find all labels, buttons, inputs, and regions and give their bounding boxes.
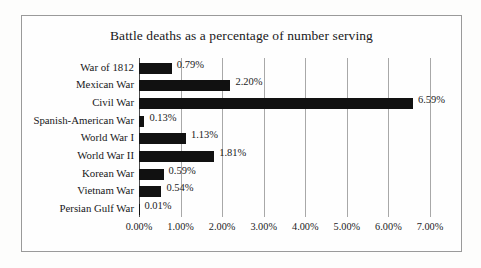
bar-value-label: 1.81%: [219, 147, 246, 158]
bar-row[interactable]: 0.59%: [139, 166, 481, 184]
bar-value-label: 0.79%: [177, 59, 204, 70]
bar[interactable]: [139, 151, 214, 162]
bar-value-label: 1.13%: [191, 129, 218, 140]
bar[interactable]: [139, 80, 230, 91]
bar[interactable]: [139, 133, 186, 144]
bar-value-label: 2.20%: [235, 76, 262, 87]
x-tick-label: 6.00%: [375, 221, 402, 232]
chart-page: Battle deaths as a percentage of number …: [0, 0, 481, 268]
category-label: Korean War: [0, 167, 134, 179]
category-label: World War II: [0, 149, 134, 161]
bar-row[interactable]: 0.01%: [139, 201, 481, 219]
category-label: Persian Gulf War: [0, 202, 134, 214]
bar-value-label: 0.54%: [166, 182, 193, 193]
category-label: Mexican War: [0, 78, 134, 90]
category-label: Civil War: [0, 96, 134, 108]
x-axis-tick-labels: 0.00%1.00%2.00%3.00%4.00%5.00%6.00%7.00%: [139, 221, 430, 237]
x-tick-label: 4.00%: [292, 221, 319, 232]
x-tick-label: 1.00%: [167, 221, 194, 232]
bar-value-label: 0.13%: [149, 112, 176, 123]
category-label: War of 1812: [0, 61, 134, 73]
category-label: Spanish-American War: [0, 114, 134, 126]
bar[interactable]: [139, 98, 413, 109]
x-tick-label: 7.00%: [417, 221, 444, 232]
chart-title: Battle deaths as a percentage of number …: [21, 28, 462, 44]
category-label: World War I: [0, 131, 134, 143]
bar-value-label: 6.59%: [418, 94, 445, 105]
bar-row[interactable]: 0.79%: [139, 60, 481, 78]
bar[interactable]: [139, 169, 164, 180]
category-axis-labels: War of 1812Mexican WarCivil WarSpanish-A…: [0, 58, 134, 217]
x-tick-label: 0.00%: [126, 221, 153, 232]
bar[interactable]: [139, 116, 144, 127]
bar[interactable]: [139, 63, 172, 74]
plot-area: 0.79%2.20%6.59%0.13%1.13%1.81%0.59%0.54%…: [139, 58, 430, 217]
category-label: Vietnam War: [0, 184, 134, 196]
x-tick-label: 5.00%: [334, 221, 361, 232]
bar-row[interactable]: 6.59%: [139, 95, 481, 113]
bar[interactable]: [139, 186, 161, 197]
bar-row[interactable]: 2.20%: [139, 77, 481, 95]
bar-row[interactable]: 0.54%: [139, 183, 481, 201]
x-tick-label: 2.00%: [209, 221, 236, 232]
x-tick-label: 3.00%: [250, 221, 277, 232]
bar-row[interactable]: 1.13%: [139, 130, 481, 148]
bar-value-label: 0.01%: [144, 200, 171, 211]
bar-row[interactable]: 0.13%: [139, 113, 481, 131]
bar-row[interactable]: 1.81%: [139, 148, 481, 166]
bar-value-label: 0.59%: [169, 165, 196, 176]
